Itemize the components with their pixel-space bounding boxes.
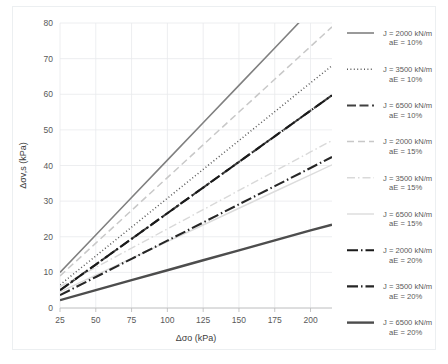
legend-sublabel-4: aE = 15% — [389, 183, 422, 192]
y-tick-label: 0 — [48, 303, 53, 313]
y-tick-label: 40 — [44, 161, 54, 171]
gridlines — [60, 23, 332, 308]
legend-label-5: J = 6500 kN/m — [383, 210, 432, 219]
x-tick-label: 150 — [232, 315, 246, 325]
y-axis-tick-labels: 01020304050607080 — [44, 18, 54, 313]
line-chart: 01020304050607080 255075100125150175200 … — [13, 7, 437, 351]
y-tick-label: 80 — [44, 18, 54, 28]
x-tick-label: 25 — [55, 315, 65, 325]
y-tick-label: 30 — [44, 196, 54, 206]
y-tick-label: 60 — [44, 89, 54, 99]
legend-label-3: J = 2000 kN/m — [383, 137, 432, 146]
legend-sublabel-7: aE = 20% — [389, 292, 422, 301]
series-line-8 — [60, 225, 332, 301]
series-line-1 — [60, 66, 332, 285]
legend-sublabel-3: aE = 15% — [389, 147, 422, 156]
series-line-5 — [60, 165, 332, 292]
axis-lines — [60, 308, 332, 312]
series-line-0 — [60, 7, 332, 272]
legend-sublabel-1: aE = 10% — [389, 75, 422, 84]
x-tick-label: 125 — [196, 315, 210, 325]
y-tick-label: 50 — [44, 125, 54, 135]
legend-label-2: J = 6500 kN/m — [383, 101, 432, 110]
x-axis-tick-labels: 255075100125150175200 — [55, 315, 318, 325]
legend-label-1: J = 3500 kN/m — [383, 65, 432, 74]
x-tick-label: 200 — [303, 315, 317, 325]
series-line-7 — [60, 157, 332, 295]
legend-sublabel-8: aE = 20% — [389, 328, 422, 337]
x-tick-label: 100 — [160, 315, 174, 325]
x-tick-label: 50 — [91, 315, 101, 325]
legend-label-4: J = 3500 kN/m — [383, 174, 432, 183]
chart-legend: J = 2000 kN/maE = 10%J = 3500 kN/maE = 1… — [347, 29, 432, 337]
legend-sublabel-0: aE = 10% — [389, 38, 422, 47]
legend-sublabel-2: aE = 10% — [389, 111, 422, 120]
y-tick-label: 20 — [44, 232, 54, 242]
chart-container: 01020304050607080 255075100125150175200 … — [12, 6, 436, 350]
legend-label-0: J = 2000 kN/m — [383, 29, 432, 38]
x-tick-label: 175 — [268, 315, 282, 325]
x-axis-title: Δσo (kPa) — [176, 333, 217, 343]
y-tick-label: 70 — [44, 54, 54, 64]
x-tick-label: 75 — [127, 315, 137, 325]
legend-label-7: J = 3500 kN/m — [383, 282, 432, 291]
series-line-4 — [60, 141, 332, 287]
y-tick-label: 10 — [44, 267, 54, 277]
y-axis-title: Δσv,s (kPa) — [18, 142, 28, 188]
data-series-group — [60, 7, 332, 300]
legend-label-8: J = 6500 kN/m — [383, 318, 432, 327]
series-line-3 — [60, 27, 332, 276]
legend-label-6: J = 2000 kN/m — [383, 246, 432, 255]
legend-sublabel-6: aE = 20% — [389, 256, 422, 265]
legend-sublabel-5: aE = 15% — [389, 219, 422, 228]
